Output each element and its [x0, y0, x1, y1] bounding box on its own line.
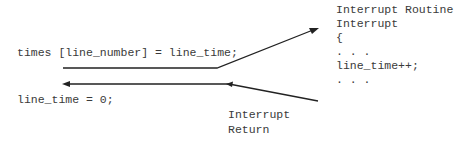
arrowhead-icon	[309, 28, 319, 34]
call-arrow	[63, 28, 319, 68]
return-arrow	[62, 81, 318, 101]
flow-arrows	[0, 0, 471, 141]
arrowhead-icon	[226, 82, 233, 88]
arrowhead-icon	[62, 81, 70, 87]
interrupt-flow-diagram: times [line_number] = line_time; line_ti…	[0, 0, 471, 141]
